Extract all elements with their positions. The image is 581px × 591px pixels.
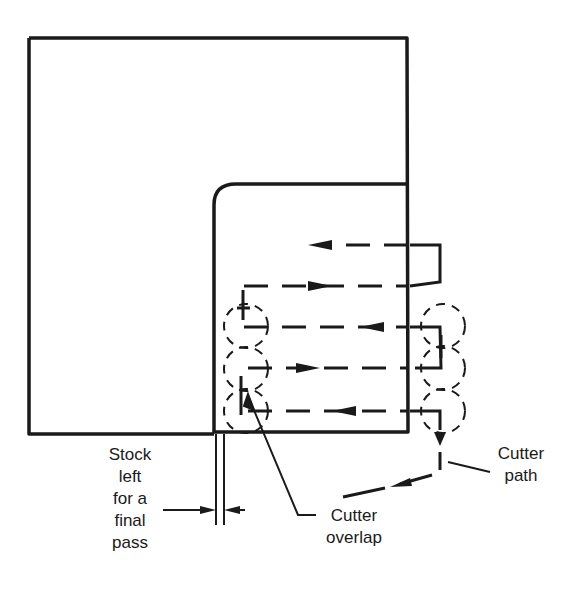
workpiece-outline xyxy=(29,38,408,432)
stock-left-label: Stock left for a final pass xyxy=(100,444,160,554)
cutter-overlap-label: Cutter overlap xyxy=(318,505,390,549)
cutter-overlap-leader xyxy=(248,396,316,515)
cutter-path-label: Cutter path xyxy=(490,443,552,487)
diagram-canvas xyxy=(0,0,581,591)
cutter-path-leader xyxy=(448,462,490,472)
direction-arrows xyxy=(296,240,446,487)
